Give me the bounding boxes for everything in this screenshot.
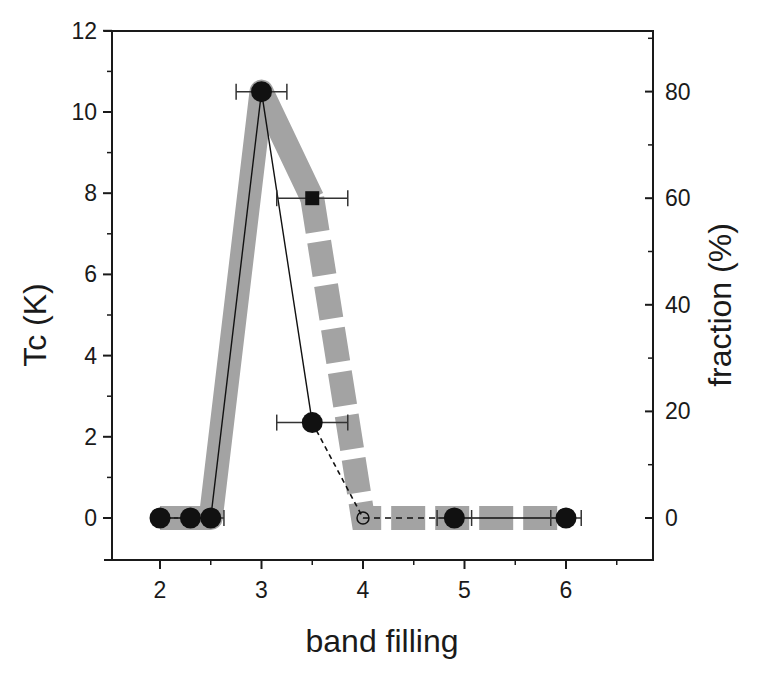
y-right-tick-label: 80 [665, 79, 691, 105]
y-right-tick-label: 40 [665, 292, 691, 318]
y-axis-left-ticks: 024681012 [71, 18, 112, 531]
y-right-tick-label: 0 [665, 505, 678, 531]
tc-point-marker [302, 412, 323, 433]
plot-frame [112, 31, 653, 560]
y-tick-label: 4 [84, 343, 97, 369]
y-tick-label: 0 [84, 505, 97, 531]
y-tick-label: 12 [71, 18, 97, 44]
x-tick-label: 5 [458, 577, 471, 603]
x-tick-label: 4 [357, 577, 370, 603]
fraction-band-dashed [312, 198, 566, 518]
y-right-tick-label: 20 [665, 398, 691, 424]
fraction-band [160, 92, 566, 518]
x-axis-title: band filling [306, 623, 459, 659]
y-axis-left-title: Tc (K) [17, 283, 53, 367]
x-tick-label: 6 [560, 577, 573, 603]
axes [104, 31, 653, 560]
y-tick-label: 2 [84, 424, 97, 450]
tc-point-marker [556, 508, 577, 529]
y-tick-label: 6 [84, 261, 97, 287]
x-tick-label: 2 [154, 577, 167, 603]
y-axis-right-ticks: 020406080 [645, 38, 691, 531]
y-right-tick-label: 60 [665, 185, 691, 211]
x-tick-label: 3 [255, 577, 268, 603]
tc-point-marker [251, 81, 272, 102]
tc-point-marker [444, 508, 465, 529]
y-tick-label: 8 [84, 180, 97, 206]
y-tick-label: 10 [71, 99, 97, 125]
y-axis-right-title: fraction (%) [702, 223, 738, 387]
tc-point-marker [180, 508, 201, 529]
tc-point-marker [150, 508, 171, 529]
tc-point-marker [200, 508, 221, 529]
fraction-square-marker [305, 191, 319, 205]
chart-svg: 23456 024681012 020406080 band filling T… [0, 0, 762, 675]
x-axis-ticks: 23456 [154, 560, 617, 603]
chart-container: 23456 024681012 020406080 band filling T… [0, 0, 762, 675]
